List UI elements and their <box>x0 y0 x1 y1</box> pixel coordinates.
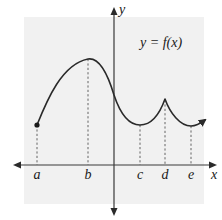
tick-label-a: a <box>34 167 41 182</box>
x-axis-label: x <box>210 167 218 182</box>
tick-label-c: c <box>137 167 144 182</box>
y-axis-up-arrow-icon <box>111 7 118 15</box>
curve-label: y = f(x) <box>138 35 182 51</box>
tick-label-d: d <box>162 167 170 182</box>
function-graph: y = f(x) x y a b c d e <box>0 0 222 220</box>
endpoint-dot-a <box>34 122 39 127</box>
tick-label-e: e <box>188 167 194 182</box>
tick-label-b: b <box>85 167 92 182</box>
x-axis-left-arrow-icon <box>13 162 21 169</box>
y-axis-down-arrow-icon <box>111 208 118 216</box>
y-axis-label: y <box>117 2 126 17</box>
